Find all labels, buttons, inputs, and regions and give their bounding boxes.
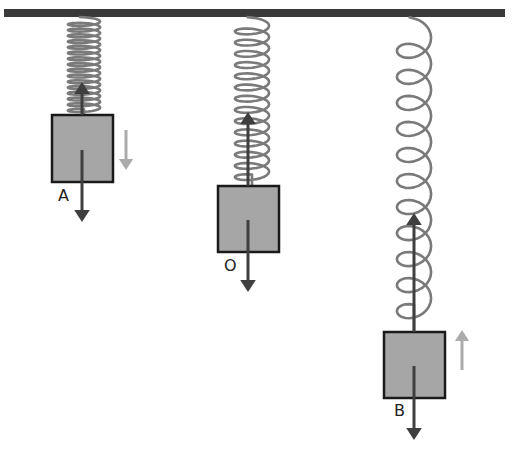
spring-a [68,17,100,115]
velocity-arrow-b [455,330,469,370]
gravity-arrow-o-head [240,280,256,292]
spring-o [235,17,269,186]
position-label-a: A [58,188,69,204]
spring-mass-diagram: A O B [0,0,512,461]
position-label-o: O [224,258,237,274]
gravity-arrow-b-head [406,428,422,440]
velocity-arrow-a-head [119,159,133,170]
diagram-canvas [0,0,512,461]
velocity-arrow-a [119,130,133,170]
gravity-arrow-a-head [74,210,90,222]
position-label-b: B [394,403,405,419]
velocity-arrow-b-head [455,330,469,341]
